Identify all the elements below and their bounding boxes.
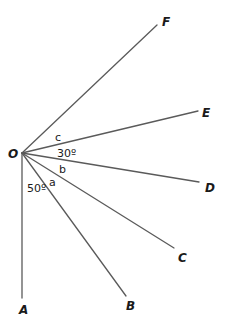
- ray-OB: [22, 153, 126, 296]
- point-label-E: E: [202, 106, 211, 120]
- point-label-C: C: [178, 251, 187, 265]
- point-label-B: B: [126, 299, 135, 313]
- point-label-F: F: [162, 15, 171, 29]
- point-labels: O F E D C B A: [8, 15, 215, 317]
- angle-label-30: 30º: [57, 147, 76, 160]
- point-label-D: D: [205, 181, 215, 195]
- point-label-A: A: [18, 303, 28, 317]
- angle-label-b: b: [59, 163, 66, 176]
- angle-diagram: O F E D C B A c 30º b a 50º: [0, 0, 226, 326]
- angle-label-a: a: [49, 176, 56, 189]
- rays: [22, 25, 199, 298]
- vertex-label-O: O: [8, 147, 18, 161]
- ray-OC: [22, 153, 174, 248]
- angle-label-c: c: [55, 131, 61, 144]
- angle-label-50: 50º: [27, 182, 46, 195]
- ray-OF: [22, 25, 157, 153]
- ray-OE: [22, 111, 198, 153]
